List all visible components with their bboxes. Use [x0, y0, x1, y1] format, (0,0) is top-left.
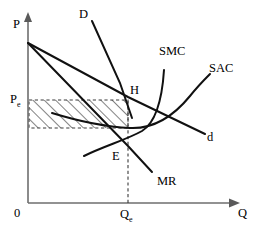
curve-label-SAC: SAC — [209, 62, 233, 75]
curve-label-d: d — [207, 131, 213, 144]
qe-tick-label-sub: e — [129, 215, 133, 224]
qe-tick-label: Qe — [120, 208, 133, 224]
economics-diagram: P Q 0 Pe Qe D d MR SMC SAC H E — [0, 0, 257, 229]
curve-label-D: D — [79, 8, 88, 21]
hatched-profit-rectangle — [29, 100, 128, 128]
price-axis-label: P — [13, 18, 20, 31]
qe-tick-label-main: Q — [120, 207, 129, 221]
diagram-svg — [0, 0, 257, 229]
curve-label-MR: MR — [157, 175, 176, 188]
origin-label: 0 — [14, 207, 20, 220]
price-axis-arrow-icon — [24, 12, 32, 22]
quantity-axis-label: Q — [238, 207, 247, 220]
point-label-E: E — [112, 150, 120, 163]
pe-tick-label: Pe — [10, 93, 21, 109]
curve-label-SMC: SMC — [159, 45, 185, 58]
pe-tick-label-sub: e — [17, 100, 21, 109]
point-label-H: H — [130, 84, 139, 97]
pe-tick-label-main: P — [10, 92, 17, 106]
